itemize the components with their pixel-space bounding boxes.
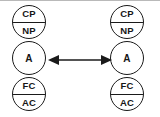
ego-half-critical-parent-left: CP <box>13 6 45 23</box>
ego-half-nurturing-parent-left: NP <box>13 23 45 39</box>
person-column-right: CP NP A FC AC <box>110 1 148 117</box>
ego-state-parent-left: CP NP <box>12 5 46 39</box>
ego-half-adapted-child-right: AC <box>111 95 143 111</box>
ego-half-nurturing-parent-right: NP <box>111 23 143 39</box>
person-column-left: CP NP A FC AC <box>12 1 50 117</box>
ego-half-adapted-child-left: AC <box>13 95 45 111</box>
ego-label-np-left: NP <box>22 26 35 36</box>
ego-state-transaction-diagram: CP NP A FC AC CP NP <box>0 0 160 117</box>
transaction-arrow-double-headed-icon <box>47 51 113 69</box>
ego-label-fc-left: FC <box>23 81 36 91</box>
ego-label-fc-right: FC <box>121 81 134 91</box>
ego-state-adult-right: A <box>110 41 144 75</box>
ego-label-cp-right: CP <box>120 9 133 19</box>
ego-label-a-right: A <box>123 53 130 64</box>
ego-state-child-left: FC AC <box>12 77 46 111</box>
ego-label-np-right: NP <box>120 26 133 36</box>
ego-label-ac-right: AC <box>120 98 134 108</box>
ego-state-child-right: FC AC <box>110 77 144 111</box>
ego-label-a-left: A <box>25 53 32 64</box>
ego-half-free-child-left: FC <box>13 78 45 95</box>
ego-half-free-child-right: FC <box>111 78 143 95</box>
ego-label-ac-left: AC <box>22 98 36 108</box>
ego-state-adult-left: A <box>12 41 46 75</box>
ego-state-parent-right: CP NP <box>110 5 144 39</box>
ego-label-cp-left: CP <box>22 9 35 19</box>
ego-half-critical-parent-right: CP <box>111 6 143 23</box>
